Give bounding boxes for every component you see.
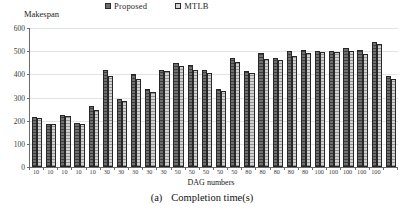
bar-mtlb — [320, 52, 325, 167]
y-tick-label: 200 — [14, 116, 25, 125]
y-tick-label: 600 — [14, 24, 25, 33]
bar-mtlb — [349, 51, 354, 167]
bar-group — [327, 28, 341, 167]
bar-group — [87, 28, 101, 167]
bar-mtlb — [235, 62, 240, 167]
bar-group — [129, 28, 143, 167]
bar-mtlb — [207, 73, 212, 167]
x-tick-mark — [397, 167, 398, 170]
bar-series-container — [30, 28, 398, 167]
bar-mtlb — [278, 60, 283, 167]
bar-mtlb — [221, 91, 226, 167]
bar-group — [313, 28, 327, 167]
bar-mtlb — [193, 70, 198, 167]
bar-group — [242, 28, 256, 167]
bar-mtlb — [363, 54, 368, 167]
bar-mtlb — [108, 76, 113, 168]
plot-area: 0100200300400500600 — [29, 28, 398, 168]
bar-mtlb — [80, 124, 85, 167]
bar-mtlb — [51, 124, 56, 167]
bar-group — [101, 28, 115, 167]
y-tick-label: 300 — [14, 93, 25, 102]
bar-group — [115, 28, 129, 167]
bar-group — [341, 28, 355, 167]
figure-caption: (a)Completion time(s) — [0, 192, 404, 203]
bar-mtlb — [179, 66, 184, 167]
bar-mtlb — [249, 73, 254, 167]
bar-mtlb — [334, 52, 339, 167]
bar-group — [285, 28, 299, 167]
bar-group — [186, 28, 200, 167]
bar-group — [72, 28, 86, 167]
y-tick-label: 0 — [21, 163, 25, 172]
bar-group — [299, 28, 313, 167]
bar-group — [30, 28, 44, 167]
bar-mtlb — [94, 110, 99, 167]
chart-legend: Proposed MTLB — [105, 1, 209, 11]
bar-group — [172, 28, 186, 167]
figure-completion-time: Proposed MTLB Makespan 01002003004005006… — [0, 0, 404, 218]
caption-index: (a) — [151, 192, 163, 203]
bar-group — [356, 28, 370, 167]
y-tick-label: 100 — [14, 139, 25, 148]
bar-group — [44, 28, 58, 167]
bar-mtlb — [65, 116, 70, 167]
bar-mtlb — [136, 79, 141, 167]
bar-group — [143, 28, 157, 167]
y-axis-title: Makespan — [24, 9, 59, 19]
bar-mtlb — [164, 71, 169, 167]
bar-mtlb — [122, 101, 127, 167]
bar-group — [271, 28, 285, 167]
y-tick-label: 400 — [14, 70, 25, 79]
bar-group — [257, 28, 271, 167]
bar-mtlb — [391, 79, 396, 167]
y-tick-label: 500 — [14, 47, 25, 56]
bar-mtlb — [37, 118, 42, 167]
legend-item-mtlb: MTLB — [175, 1, 208, 11]
bar-group — [200, 28, 214, 167]
bar-group — [214, 28, 228, 167]
bar-group — [58, 28, 72, 167]
legend-label-mtlb: MTLB — [184, 1, 208, 11]
x-axis-title: DAG numbers — [0, 178, 404, 187]
bar-mtlb — [150, 92, 155, 167]
bar-group — [370, 28, 384, 167]
bar-group-trailing — [384, 28, 398, 167]
bar-mtlb — [264, 59, 269, 167]
legend-label-proposed: Proposed — [114, 1, 147, 11]
legend-swatch-proposed — [105, 3, 111, 9]
bar-group — [228, 28, 242, 167]
caption-text: Completion time(s) — [171, 192, 253, 203]
bar-mtlb — [306, 53, 311, 167]
bar-mtlb — [292, 56, 297, 167]
legend-item-proposed: Proposed — [105, 1, 147, 11]
bar-group — [157, 28, 171, 167]
legend-swatch-mtlb — [175, 3, 181, 9]
bar-mtlb — [377, 44, 382, 167]
